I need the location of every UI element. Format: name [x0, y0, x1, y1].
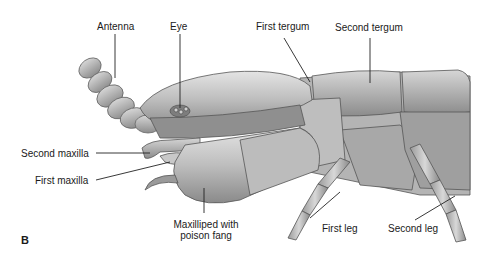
label-first-leg: First leg: [322, 223, 358, 234]
centipede-diagram: [0, 0, 488, 259]
label-first-tergum: First tergum: [256, 21, 309, 32]
panel-letter: B: [21, 234, 29, 246]
label-maxilliped-line2: poison fang: [170, 230, 242, 241]
maxilliped: [145, 128, 320, 203]
label-second-tergum: Second tergum: [335, 22, 403, 33]
label-maxilliped-line1: Maxilliped with: [170, 219, 242, 230]
label-eye: Eye: [170, 21, 187, 32]
label-maxilliped: Maxilliped with poison fang: [170, 219, 242, 241]
head: [140, 71, 312, 138]
antenna: [75, 54, 161, 133]
label-antenna: Antenna: [97, 21, 134, 32]
label-first-maxilla: First maxilla: [35, 175, 88, 186]
label-second-maxilla: Second maxilla: [21, 148, 89, 159]
label-second-leg: Second leg: [388, 223, 438, 234]
